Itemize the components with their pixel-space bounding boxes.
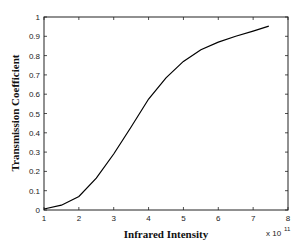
x-tick-label: 1 (42, 214, 47, 223)
y-tick-label: 0.9 (29, 32, 41, 41)
y-axis-title: Transmission Coefficient (9, 54, 21, 171)
y-tick-label: 0.1 (29, 187, 41, 196)
y-tick-label: 0.5 (29, 110, 41, 119)
x-axis-multiplier: x 10 (266, 229, 282, 238)
x-tick-label: 2 (77, 214, 82, 223)
line-chart: 12345678 00.10.20.30.40.50.60.70.80.91 I… (0, 0, 296, 247)
y-tick-label: 0.8 (29, 52, 41, 61)
x-axis-multiplier-exponent: 11 (284, 226, 291, 232)
x-axis-title: Infrared Intensity (124, 228, 209, 240)
y-tick-label: 0.6 (29, 90, 41, 99)
y-tick-label: 0.3 (29, 148, 41, 157)
x-tick-label: 4 (146, 214, 151, 223)
y-tick-label: 0.2 (29, 167, 41, 176)
plot-area (44, 17, 288, 210)
x-tick-label: 3 (111, 214, 116, 223)
y-tick-label: 0.4 (29, 129, 41, 138)
x-tick-label: 8 (286, 214, 291, 223)
y-tick-label: 0 (36, 206, 41, 215)
x-tick-label: 5 (181, 214, 186, 223)
x-tick-label: 7 (251, 214, 256, 223)
y-tick-label: 1 (36, 13, 41, 22)
x-tick-label: 6 (216, 214, 221, 223)
y-tick-label: 0.7 (29, 71, 41, 80)
